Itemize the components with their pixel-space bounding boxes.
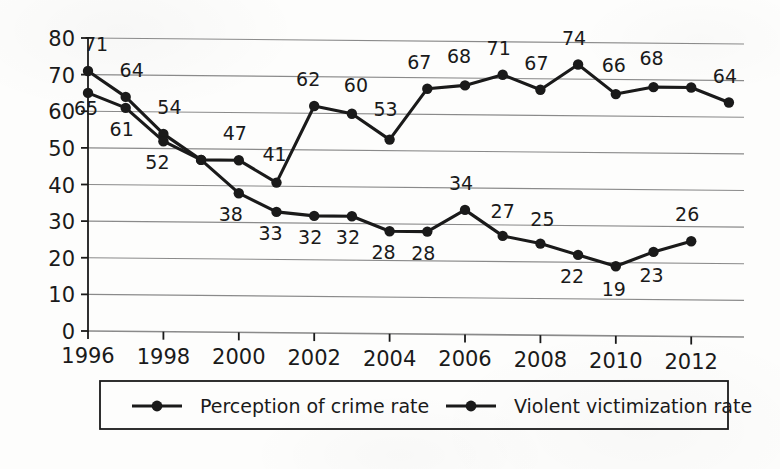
data-value-label: 60 xyxy=(344,74,368,96)
y-tick-label: 80 xyxy=(48,27,75,51)
data-value-label: 53 xyxy=(374,98,398,120)
y-tick-label: 10 xyxy=(48,283,75,307)
data-point-marker xyxy=(234,188,244,198)
data-point-marker xyxy=(83,66,93,76)
y-tick-label: 70 xyxy=(48,64,75,88)
data-point-marker xyxy=(196,155,206,165)
data-point-marker xyxy=(498,231,508,241)
gridline xyxy=(88,331,744,337)
data-point-marker xyxy=(234,155,244,165)
data-point-marker xyxy=(347,211,357,221)
gridline xyxy=(88,111,744,117)
data-point-marker xyxy=(121,103,131,113)
data-value-label: 28 xyxy=(411,242,435,264)
x-tick-label: 2006 xyxy=(438,347,491,371)
data-value-label: 71 xyxy=(84,33,108,55)
data-point-marker xyxy=(535,238,545,248)
legend-item-1[interactable]: Perception of crime rate xyxy=(132,395,429,417)
data-point-marker xyxy=(158,136,168,146)
data-point-marker xyxy=(271,207,281,217)
data-point-marker xyxy=(686,236,696,246)
data-value-label: 64 xyxy=(713,65,737,87)
data-point-marker xyxy=(422,84,432,94)
data-point-marker xyxy=(384,226,394,236)
data-value-label: 67 xyxy=(524,52,548,74)
data-value-label: 34 xyxy=(449,172,473,194)
data-point-marker xyxy=(309,101,319,111)
gridline xyxy=(88,75,744,81)
data-value-label: 32 xyxy=(298,226,322,248)
data-point-marker xyxy=(460,80,470,90)
gridline xyxy=(88,185,744,191)
data-point-marker xyxy=(648,82,658,92)
data-value-label: 22 xyxy=(560,265,584,287)
data-point-marker xyxy=(648,247,658,257)
data-value-label: 32 xyxy=(336,226,360,248)
y-axis xyxy=(81,37,88,332)
data-value-label: 66 xyxy=(602,54,626,76)
chart-legend: Perception of crime rateViolent victimiz… xyxy=(100,381,752,429)
data-point-marker xyxy=(573,250,583,260)
x-tick-label: 2010 xyxy=(589,349,642,373)
data-point-marker xyxy=(611,89,621,99)
data-point-marker xyxy=(724,97,734,107)
x-tick-label: 2012 xyxy=(664,350,717,374)
series-1 xyxy=(83,59,734,188)
x-tick-label: 2000 xyxy=(212,345,265,369)
data-point-marker xyxy=(422,226,432,236)
data-value-label: 62 xyxy=(296,68,320,90)
data-point-marker xyxy=(535,85,545,95)
y-tick-label: 60 xyxy=(48,100,75,124)
data-value-label: 52 xyxy=(145,151,169,173)
data-value-label: 41 xyxy=(262,143,286,165)
data-value-label: 28 xyxy=(372,241,396,263)
line-chart: 01020304050607080 1996199820002002200420… xyxy=(0,0,780,469)
legend-item-2[interactable]: Violent victimization rate xyxy=(446,395,752,417)
data-value-label: 38 xyxy=(219,203,243,225)
y-tick-label: 30 xyxy=(48,210,75,234)
data-value-label: 74 xyxy=(562,27,586,49)
data-value-label: 23 xyxy=(639,264,663,286)
x-tick-label: 2008 xyxy=(514,348,567,372)
y-tick-label: 0 xyxy=(62,320,75,344)
legend-item-label: Perception of crime rate xyxy=(200,395,429,417)
data-point-marker xyxy=(460,205,470,215)
data-point-marker xyxy=(573,59,583,69)
legend-marker-dot xyxy=(466,401,477,412)
x-tick-label: 1998 xyxy=(137,345,190,369)
data-value-label: 54 xyxy=(157,96,181,118)
legend-marker-dot xyxy=(152,401,163,412)
x-tick-labels: 199619982000200220042006200820102012 xyxy=(61,344,718,374)
data-point-marker xyxy=(309,211,319,221)
gridlines xyxy=(88,38,744,337)
legend-item-label: Violent victimization rate xyxy=(514,395,752,417)
gridline xyxy=(88,38,744,44)
data-value-label: 67 xyxy=(407,51,431,73)
data-point-marker xyxy=(384,134,394,144)
data-value-label: 25 xyxy=(530,208,554,230)
data-point-marker xyxy=(686,82,696,92)
x-tick-label: 2004 xyxy=(363,347,416,371)
data-value-label: 71 xyxy=(487,37,511,59)
data-point-marker xyxy=(271,177,281,187)
data-value-label: 65 xyxy=(74,97,98,119)
data-value-label: 19 xyxy=(602,278,626,300)
data-value-label: 26 xyxy=(675,203,699,225)
data-point-marker xyxy=(347,109,357,119)
x-tick-label: 1996 xyxy=(61,344,114,368)
x-tick-label: 2002 xyxy=(287,346,340,370)
data-value-label: 33 xyxy=(258,222,282,244)
data-value-label: 47 xyxy=(223,122,247,144)
gridline xyxy=(88,221,744,227)
data-value-label: 68 xyxy=(639,47,663,69)
data-point-marker xyxy=(498,70,508,80)
series-line xyxy=(88,65,729,183)
data-point-marker xyxy=(121,92,131,102)
y-tick-label: 40 xyxy=(48,174,75,198)
data-value-label: 27 xyxy=(491,200,515,222)
data-series-group xyxy=(83,59,734,271)
y-tick-labels: 01020304050607080 xyxy=(48,27,75,344)
data-point-marker xyxy=(611,261,621,271)
y-tick-label: 20 xyxy=(48,247,75,271)
data-value-label: 68 xyxy=(447,45,471,67)
